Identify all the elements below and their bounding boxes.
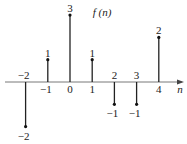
- value-label: −1: [129, 108, 141, 119]
- x-tick-label: 2: [112, 70, 118, 81]
- value-label: 3: [67, 3, 73, 14]
- x-tick-label: 0: [67, 84, 73, 95]
- x-axis-label: n: [177, 84, 183, 95]
- stem-marker: [24, 125, 27, 128]
- x-tick-label: 4: [156, 84, 162, 95]
- value-label: −2: [18, 130, 30, 141]
- chart-title: f (n): [93, 7, 112, 18]
- value-label: 1: [45, 47, 51, 58]
- x-tick-label: 1: [89, 84, 95, 95]
- stem-marker: [46, 58, 49, 61]
- stem-marker: [113, 103, 116, 106]
- stem-marker: [91, 58, 94, 61]
- value-label: −1: [107, 108, 119, 119]
- value-label: 2: [156, 25, 162, 36]
- value-label: 1: [89, 47, 95, 58]
- x-tick-label: −2: [18, 70, 30, 81]
- x-tick-label: −1: [40, 84, 52, 95]
- stem-marker: [157, 36, 160, 39]
- stem-marker: [135, 103, 138, 106]
- x-tick-label: 3: [134, 70, 140, 81]
- stem-marker: [68, 13, 71, 16]
